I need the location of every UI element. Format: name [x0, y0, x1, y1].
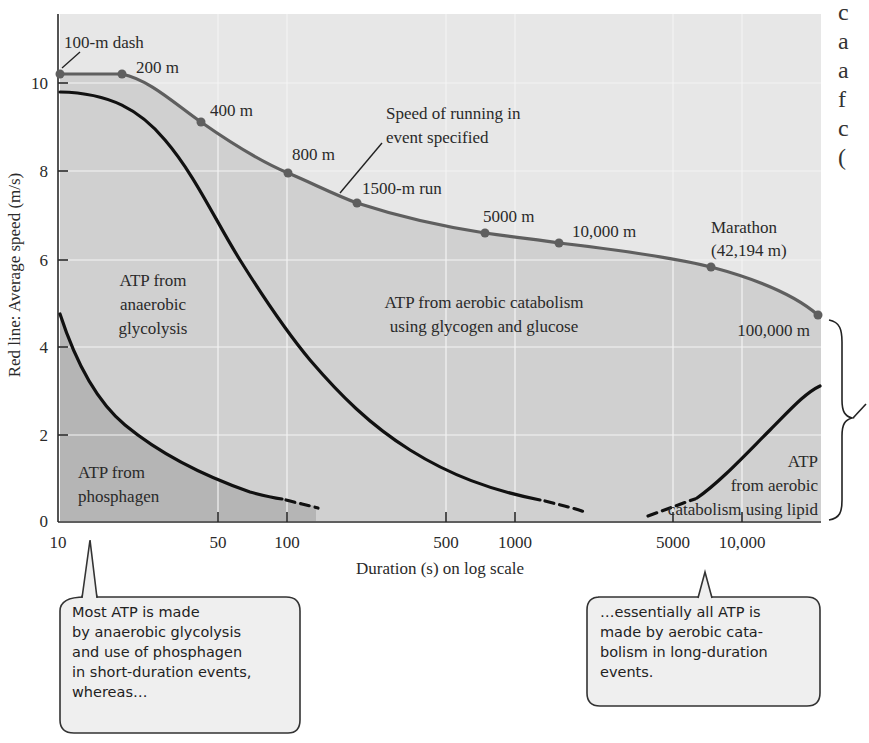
callout-left-line-2: by anaerobic glycolysis — [72, 622, 251, 642]
label-1500m-run: 1500-m run — [362, 179, 442, 198]
point-100m — [56, 70, 65, 79]
brace-pointer — [853, 404, 866, 418]
x-tick-1000: 1000 — [498, 533, 532, 552]
y-tick-10: 10 — [31, 74, 48, 93]
label-800m: 800 m — [292, 145, 335, 164]
point-400m — [197, 118, 206, 127]
svg-text:ATP from aerobic catabolism: ATP from aerobic catabolism — [384, 293, 583, 312]
label-100000m: 100,000 m — [737, 321, 810, 340]
callout-left-line-4: in short-duration events, — [72, 662, 251, 682]
callout-right-line-3: bolism in long-duration — [600, 642, 768, 662]
x-tick-50: 50 — [210, 533, 227, 552]
point-marathon — [707, 263, 716, 272]
right-brace — [829, 320, 852, 520]
callout-left-line-1: Most ATP is made — [72, 602, 251, 622]
callout-right-line-1: …essentially all ATP is — [600, 602, 768, 622]
point-10000m — [555, 239, 564, 248]
y-tick-2: 2 — [40, 426, 49, 445]
x-tick-10: 10 — [50, 533, 67, 552]
region-label-anaerobic: ATP from anaerobic glycolysis — [119, 271, 188, 338]
callout-left-line-3: and use of phosphagen — [72, 642, 251, 662]
label-10000m: 10,000 m — [572, 222, 636, 241]
svg-text:using glycogen and glucose: using glycogen and glucose — [390, 317, 578, 336]
svg-text:from aerobic: from aerobic — [731, 476, 819, 495]
callout-right-pointer — [698, 572, 712, 598]
svg-text:glycolysis: glycolysis — [119, 319, 188, 338]
svg-text:ATP from: ATP from — [120, 271, 187, 290]
label-marathon: Marathon — [711, 218, 778, 237]
callout-left-line-5: whereas… — [72, 682, 251, 702]
callout-right-line-2: made by aerobic cata- — [600, 622, 768, 642]
x-tick-labels: 10 50 100 500 1000 5000 10,000 — [50, 533, 766, 552]
label-5000m: 5000 m — [483, 207, 534, 226]
svg-text:ATP: ATP — [788, 452, 818, 471]
svg-text:catabolism using lipid: catabolism using lipid — [668, 500, 819, 519]
point-200m — [118, 70, 127, 79]
callout-left-text: Most ATP is made by anaerobic glycolysis… — [72, 602, 251, 702]
svg-text:anaerobic: anaerobic — [120, 295, 187, 314]
y-axis-title: Red line: Average speed (m/s) — [5, 173, 24, 378]
y-tick-4: 4 — [40, 338, 49, 357]
y-tick-8: 8 — [40, 162, 49, 181]
x-tick-10000: 10,000 — [719, 533, 766, 552]
callout-right-line-4: events. — [600, 662, 768, 682]
y-tick-0: 0 — [40, 512, 49, 531]
label-200m: 200 m — [136, 58, 179, 77]
point-5000m — [481, 229, 490, 238]
y-tick-6: 6 — [40, 251, 49, 270]
point-800m — [284, 169, 293, 178]
cropped-page-text-right: c a a f c ( — [838, 0, 849, 172]
label-400m: 400 m — [210, 101, 253, 120]
point-1500m — [353, 199, 362, 208]
y-tick-labels: 0 2 4 6 8 10 — [31, 74, 49, 531]
callout-left-pointer — [82, 540, 97, 598]
svg-text:Speed of running in: Speed of running in — [386, 104, 521, 123]
x-tick-100: 100 — [274, 533, 300, 552]
point-100000m — [814, 311, 823, 320]
callout-right-text: …essentially all ATP is made by aerobic … — [600, 602, 768, 682]
label-marathon-distance: (42,194 m) — [711, 241, 787, 260]
svg-text:ATP from: ATP from — [78, 463, 145, 482]
x-axis-title: Duration (s) on log scale — [356, 559, 524, 578]
x-tick-5000: 5000 — [656, 533, 690, 552]
svg-text:event specified: event specified — [386, 128, 489, 147]
svg-text:phosphagen: phosphagen — [78, 487, 160, 506]
label-100m-dash: 100-m dash — [64, 33, 144, 52]
x-tick-500: 500 — [433, 533, 459, 552]
